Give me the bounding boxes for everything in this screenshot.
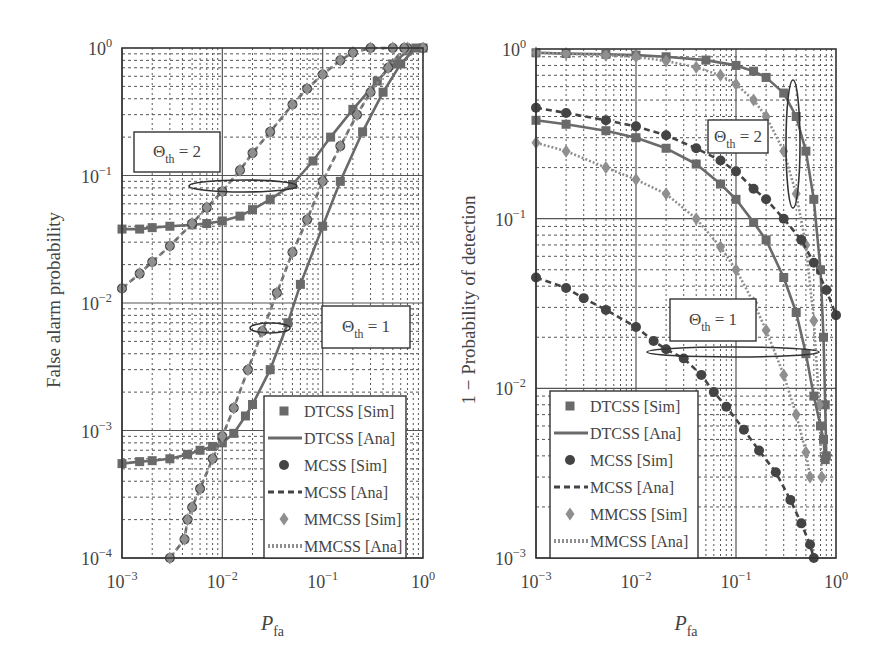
y-axis-label: False alarm probability [43,211,64,388]
diamond-marker [336,54,345,67]
x-axis-label: Pfa [673,612,698,639]
circle-marker [631,121,641,131]
square-marker [148,456,157,465]
legend-label: MCSS [Ana] [590,479,674,496]
legend-label: MMCSS [Sim] [590,506,687,523]
square-marker [248,400,257,409]
y-tick-label: 10−1 [81,164,112,187]
circle-marker [631,322,641,332]
square-marker [280,407,289,416]
diamond-marker [243,363,252,376]
circle-marker [649,336,659,346]
square-marker [562,120,571,129]
y-tick-label: 10−4 [81,546,112,569]
legend-label: MMCSS [Ana] [590,533,688,550]
square-marker [183,450,192,459]
legend-box [264,396,406,558]
square-marker [135,225,144,234]
x-tick-label: 10−2 [207,569,238,592]
x-tick-label: 10−1 [307,569,338,592]
square-marker [801,147,810,156]
square-marker [732,61,741,70]
square-marker [165,222,174,231]
diamond-marker [272,286,281,299]
diamond-marker [135,267,144,280]
square-marker [779,89,788,98]
diamond-marker [303,82,312,95]
circle-marker [785,495,795,505]
square-marker [202,219,211,228]
x-axis-label: Pfa [260,612,285,639]
circle-marker [796,518,806,528]
square-marker [196,446,205,455]
x-tick-label: 10−2 [620,569,651,592]
square-marker [165,454,174,463]
legend-label: DTCSS [Sim] [590,398,680,415]
square-marker [601,126,610,135]
diamond-marker [562,145,571,158]
legend: DTCSS [Sim]DTCSS [Ana]MCSS [Sim]MCSS [An… [550,391,698,558]
circle-marker [679,353,689,363]
legend-label: MMCSS [Ana] [304,538,402,555]
annotation-ellipse [647,347,819,357]
data-series [531,103,841,320]
circle-marker [279,460,289,470]
circle-marker [821,285,831,295]
square-marker [749,218,758,227]
diamond-marker [180,533,189,546]
square-marker [816,421,825,430]
circle-marker [565,455,575,465]
square-marker [632,133,641,142]
diamond-marker [817,471,826,484]
square-marker [762,235,771,244]
legend-label: DTCSS [Ana] [590,425,681,442]
diamond-marker [183,513,192,526]
x-tick-label: 100 [824,569,848,592]
square-marker [318,222,327,231]
diamond-marker [601,161,610,174]
y-tick-label: 10−3 [81,419,112,442]
diamond-marker [732,78,741,91]
x-tick-label: 10−3 [520,569,551,592]
diamond-marker [318,68,327,81]
x-tick-label: 10−3 [106,569,137,592]
diamond-marker [165,239,174,252]
circle-marker [754,446,764,456]
legend: DTCSS [Sim]DTCSS [Ana]MCSS [Sim]MCSS [An… [264,396,406,558]
circle-marker [601,115,611,125]
square-marker [566,402,575,411]
square-marker [308,156,317,165]
x-tick-label: 100 [411,569,435,592]
square-marker [358,127,367,136]
circle-marker [749,184,759,194]
diamond-marker [801,446,810,459]
y-tick-label: 10−2 [495,376,526,399]
circle-marker [561,283,571,293]
square-marker [296,280,305,289]
square-marker [732,195,741,204]
circle-marker [691,143,701,153]
circle-marker [779,214,789,224]
circle-marker [805,540,815,550]
circle-marker [716,156,726,166]
right-chart-miss-detection: Θth = 2Θth = 1DTCSS [Sim]DTCSS [Ana]MCSS… [458,37,848,639]
diamond-marker [692,61,701,74]
y-axis-label: 1 − Probability of detection [458,195,479,405]
legend-label: MCSS [Sim] [590,452,673,469]
square-marker [218,216,227,225]
circle-marker [721,402,731,412]
legend-label: DTCSS [Sim] [304,403,394,420]
threshold-annotation: Θth = 2 [134,132,297,192]
square-marker [821,455,830,464]
figure: Θth = 2Θth = 1DTCSS [Sim]DTCSS [Ana]MCSS… [0,0,891,660]
square-marker [692,159,701,168]
square-marker [266,365,275,374]
diamond-marker [632,173,641,186]
series-line [536,108,836,315]
square-marker [396,59,405,68]
diamond-marker [792,408,801,421]
square-marker [809,195,818,204]
square-marker [779,273,788,282]
square-marker [229,429,238,438]
circle-marker [739,425,749,435]
